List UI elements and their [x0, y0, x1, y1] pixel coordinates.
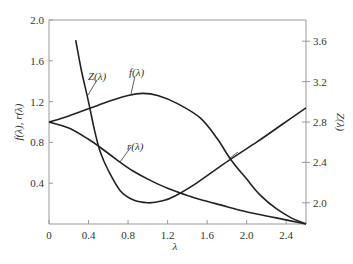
y2-axis-title: Z(λ): [334, 113, 347, 132]
x-tick-label: 0.8: [121, 229, 135, 241]
curves: [49, 40, 306, 224]
y-axis-ticks: 0.40.81.21.62.0: [30, 14, 53, 189]
f-label-leader: [131, 76, 135, 94]
x-tick-label: 0: [46, 229, 52, 241]
x-tick-label: 1.6: [200, 229, 214, 241]
curve-annotations: Z(λ) f(λ) r(λ): [88, 66, 238, 162]
r-curve: [49, 122, 306, 224]
r-curve-label: r(λ): [127, 140, 144, 153]
y-tick-label: 0.8: [30, 136, 44, 148]
chart: 00.40.81.21.62.02.4 0.40.81.21.62.0 2.02…: [0, 0, 353, 264]
x-tick-label: 2.4: [279, 229, 293, 241]
y2-tick-label: 2.8: [313, 116, 327, 128]
y2-tick-label: 3.6: [313, 35, 327, 47]
y2-tick-label: 2.4: [313, 156, 327, 168]
x-axis-title: λ: [172, 240, 178, 252]
z-curve: [76, 40, 306, 203]
z-label-leader: [88, 80, 97, 95]
y-tick-label: 2.0: [30, 14, 44, 26]
x-tick-label: 2.0: [240, 229, 254, 241]
y2-tick-label: 3.2: [313, 76, 327, 88]
y2-tick-label: 2.0: [313, 197, 327, 209]
y-tick-label: 1.6: [30, 55, 44, 67]
x-axis-ticks: 00.40.81.21.62.02.4: [46, 220, 293, 241]
f-curve: [49, 93, 306, 224]
plot-frame: [49, 20, 306, 224]
y-tick-label: 1.2: [30, 96, 44, 108]
f-curve-label: f(λ): [129, 66, 144, 79]
z-curve-label: Z(λ): [88, 70, 107, 83]
y-axis-title: f(λ), r(λ): [12, 103, 25, 140]
y-tick-label: 0.4: [30, 177, 44, 189]
x-tick-label: 0.4: [82, 229, 96, 241]
